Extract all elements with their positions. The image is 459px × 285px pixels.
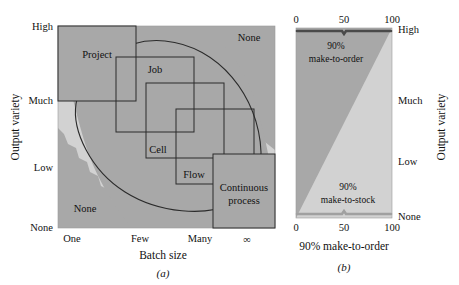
panel-b-xtick-bottom-0: 0 [293,222,298,233]
panel-b-top-label-1: 90% [327,41,345,51]
panel-b-xtick-top-50: 50 [339,14,350,25]
panel-a-letter: (a) [157,267,170,280]
panel-b-ytick-none: None [398,211,421,222]
process-box-continuous-label-2: process [228,195,260,206]
panel-b-bottom-label-2: make-to-stock [321,195,376,205]
panel-b-y-axis-title: Output variety [435,93,448,160]
process-box-project-label: Project [82,49,112,60]
panel-a-ytick-none: None [30,222,53,233]
panel-b-letter: (b) [338,261,351,274]
panel-b-top-label-2: make-to-order [309,54,364,64]
process-box-continuous-label-1: Continuous [220,182,268,193]
panel-a-xtick-few: Few [131,233,150,244]
panel-a-xtick-one: One [63,233,81,244]
panel-a-ytick-low: Low [34,162,54,173]
panel-b-xtick-bottom-100: 100 [384,222,400,233]
panel-a-ytick-much: Much [29,95,54,106]
panel-a-xtick-many: Many [188,233,213,244]
process-box-cell-label: Cell [149,144,167,155]
panel-b-bottom-label-1: 90% [339,182,357,192]
process-box-flow-label: Flow [183,169,205,180]
panel-b-ytick-low: Low [398,156,418,167]
figure-container: Project Job Cell Flow Continuous process… [0,0,459,285]
process-box-job-label: Job [148,64,163,75]
panel-a-ytick-high: High [32,21,54,32]
panel-a-y-axis-title: Output variety [9,93,22,160]
panel-b-ytick-high: High [398,24,420,35]
panel-b-ytick-much: Much [398,95,423,106]
panel-b-xtick-bottom-50: 50 [339,222,350,233]
panel-a-region-label-none-top: None [238,32,261,43]
panel-a-x-axis-title: Batch size [139,249,187,261]
panel-b-xtick-top-0: 0 [293,14,298,25]
panel-b-x-axis-title: 90% make-to-order [299,240,389,252]
panel-a-xtick-infinity: ∞ [243,234,251,245]
panel-a-region-label-none-bottom: None [74,203,97,214]
